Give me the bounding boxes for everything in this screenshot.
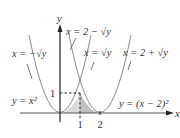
y-axis-arrow-icon — [58, 24, 63, 32]
shaded-region-left — [60, 93, 80, 113]
label-y-eq-x-squared: y = x² — [11, 95, 38, 106]
x-tick-label-2: 2 — [98, 119, 103, 130]
x-axis-arrow-icon — [166, 111, 174, 116]
label-x-eq-sqrt-y: x = √y — [83, 47, 112, 58]
x-tick-label-1: 1 — [78, 119, 83, 130]
label-x-eq-2-minus-sqrt-y: x = 2 − √y — [65, 26, 111, 37]
shaded-region-right — [80, 93, 100, 113]
leader-sqrt-y — [91, 62, 94, 70]
x-axis-label: x — [174, 108, 180, 119]
leader-2-plus-sqrt-y — [128, 61, 131, 70]
y-tick-label-1: 1 — [50, 88, 55, 99]
y-axis-label: y — [56, 13, 62, 24]
label-y-eq-x-minus-2-squared: y = (x − 2)² — [118, 98, 169, 110]
label-x-eq-neg-sqrt-y: x = −√y — [11, 48, 47, 59]
diagram-canvas: y x 1 2 1 x = −√y x = 2 − √y x = √y x = … — [0, 0, 180, 138]
leader-neg-sqrt-y — [27, 64, 32, 79]
label-x-eq-2-plus-sqrt-y: x = 2 + √y — [122, 47, 168, 58]
